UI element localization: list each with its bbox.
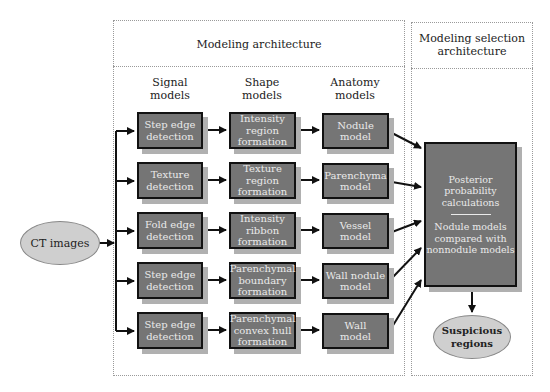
posterior-probability-box: Posterior probability calculations Nodul… — [424, 142, 517, 287]
box-text: Step edge — [144, 269, 195, 281]
anatomy-box-nodule: Nodule model — [322, 113, 389, 149]
box-text: model — [340, 281, 371, 293]
box-text: formation — [238, 336, 288, 348]
box-text: convex hull — [234, 325, 292, 337]
output-label-line: regions — [442, 337, 502, 350]
box-text: Parenchymal — [230, 313, 296, 325]
box-text: boundary — [238, 275, 286, 287]
anatomy-box-parenchyma: Parenchyma model — [322, 163, 389, 199]
output-label-line: Suspicious — [442, 324, 502, 337]
box-text: Step edge — [144, 319, 195, 331]
shape-box-intensity-ribbon: Intensity ribbon formation — [229, 212, 296, 249]
box-text: model — [340, 231, 371, 243]
ct-images-label: CT images — [31, 237, 90, 250]
box-text: Wall — [345, 320, 367, 332]
signal-box-step-edge-2: Step edge detection — [137, 262, 203, 299]
box-text: formation — [238, 286, 288, 298]
box-text: detection — [146, 131, 194, 143]
anatomy-box-wall-nodule: Wall nodule model — [322, 263, 389, 299]
box-text: Vessel — [340, 220, 372, 232]
ct-images-node: CT images — [20, 221, 100, 265]
shape-box-parenchymal-boundary: Parenchymal boundary formation — [229, 262, 296, 299]
box-text: Fold edge — [145, 219, 195, 231]
box-text: Parenchyma — [324, 170, 387, 182]
box-text: probability — [444, 185, 496, 197]
box-text: formation — [238, 136, 288, 148]
box-text: Posterior — [449, 174, 493, 186]
shape-box-texture-region: Texture region formation — [229, 162, 296, 199]
shape-box-parenchymal-convex-hull: Parenchymal convex hull formation — [229, 312, 296, 349]
anatomy-box-vessel: Vessel model — [322, 213, 389, 249]
box-text: region — [246, 125, 279, 137]
signal-box-step-edge-3: Step edge detection — [137, 312, 203, 349]
box-text: model — [340, 331, 371, 343]
box-text: detection — [146, 231, 194, 243]
box-text: formation — [238, 186, 288, 198]
box-text: Step edge — [144, 119, 195, 131]
signal-box-fold-edge: Fold edge detection — [137, 212, 203, 249]
box-text: detection — [146, 281, 194, 293]
box-text: compared with — [434, 233, 506, 245]
box-text: Intensity — [240, 213, 285, 225]
shape-box-intensity-region: Intensity region formation — [229, 112, 296, 149]
box-text: Nodule — [337, 120, 374, 132]
box-text: Texture — [243, 163, 282, 175]
box-text: detection — [146, 331, 194, 343]
box-text: formation — [238, 236, 288, 248]
box-text: Texture — [151, 169, 190, 181]
box-text: Intensity — [240, 113, 285, 125]
box-text: model — [340, 181, 371, 193]
anatomy-box-wall: Wall model — [322, 313, 389, 349]
box-text: model — [340, 131, 371, 143]
box-text: detection — [146, 181, 194, 193]
box-text: ribbon — [246, 225, 279, 237]
box-text: nonnodule models — [426, 244, 514, 256]
signal-box-step-edge-1: Step edge detection — [137, 112, 203, 149]
suspicious-regions-node: Suspicious regions — [433, 315, 511, 359]
signal-box-texture: Texture detection — [137, 162, 203, 199]
box-text: Nodule models — [434, 221, 506, 233]
box-text: Wall nodule — [326, 270, 385, 282]
separator-line — [451, 214, 491, 215]
box-text: Parenchymal — [230, 263, 296, 275]
box-text: region — [246, 175, 279, 187]
box-text: calculations — [442, 197, 500, 209]
